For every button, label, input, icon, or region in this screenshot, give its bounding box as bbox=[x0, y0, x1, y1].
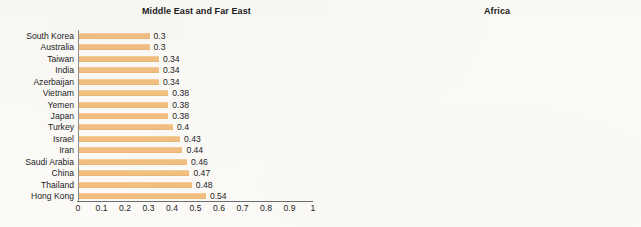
value-label: 0.44 bbox=[186, 146, 203, 155]
chart-title-left: Middle East and Far East bbox=[142, 6, 251, 16]
category-label: Israel bbox=[53, 135, 74, 144]
value-label: 0.48 bbox=[196, 180, 213, 189]
bar-row: Yemen0.38 bbox=[78, 99, 313, 110]
x-tick-label: 0 bbox=[76, 204, 81, 213]
value-label: 0.34 bbox=[163, 77, 180, 86]
x-tick-label: 0.2 bbox=[119, 204, 131, 213]
bar-row: South Korea0.3 bbox=[78, 30, 313, 41]
value-label: 0.3 bbox=[154, 31, 166, 40]
category-label: South Korea bbox=[26, 31, 74, 40]
value-label: 0.43 bbox=[184, 135, 201, 144]
bar-row: Taiwan0.34 bbox=[78, 53, 313, 64]
bar-row: Azerbaijan0.34 bbox=[78, 76, 313, 87]
bar bbox=[79, 90, 168, 96]
category-label: Hong Kong bbox=[31, 192, 74, 201]
value-label: 0.4 bbox=[177, 123, 189, 132]
bar-row: India0.34 bbox=[78, 64, 313, 75]
bar-row: Hong Kong0.54 bbox=[78, 191, 313, 202]
chart-panel-middle-east-and-far-east: Middle East and Far East South Korea0.3A… bbox=[0, 0, 318, 227]
bar-row: Thailand0.48 bbox=[78, 179, 313, 190]
bar-row: Israel0.43 bbox=[78, 133, 313, 144]
category-label: Iran bbox=[59, 146, 74, 155]
value-label: 0.34 bbox=[163, 66, 180, 75]
category-label: India bbox=[55, 66, 74, 75]
bar bbox=[79, 33, 150, 39]
category-label: Taiwan bbox=[47, 54, 74, 63]
bar-rows-left: South Korea0.3Australia0.3Taiwan0.34Indi… bbox=[78, 30, 313, 202]
value-label: 0.3 bbox=[154, 43, 166, 52]
plot-area-left: South Korea0.3Australia0.3Taiwan0.34Indi… bbox=[78, 30, 313, 202]
bar bbox=[79, 182, 192, 188]
bar bbox=[79, 102, 168, 108]
x-tick-label: 1 bbox=[311, 204, 316, 213]
bar bbox=[79, 159, 187, 165]
value-label: 0.38 bbox=[172, 89, 189, 98]
bar bbox=[79, 124, 173, 130]
category-label: Turkey bbox=[48, 123, 74, 132]
x-tick-label: 0.8 bbox=[260, 204, 272, 213]
value-label: 0.54 bbox=[210, 192, 227, 201]
x-tick-label: 0.6 bbox=[213, 204, 225, 213]
chart-title-right: Africa bbox=[484, 6, 510, 16]
bar bbox=[79, 56, 159, 62]
bar-row: Saudi Arabia0.46 bbox=[78, 156, 313, 167]
category-label: China bbox=[52, 169, 74, 178]
bar-row: Japan0.38 bbox=[78, 110, 313, 121]
x-tick-label: 0.1 bbox=[96, 204, 108, 213]
category-label: Saudi Arabia bbox=[25, 158, 74, 167]
category-label: Australia bbox=[41, 43, 74, 52]
bar bbox=[79, 147, 182, 153]
bar-row: Vietnam0.38 bbox=[78, 87, 313, 98]
bar-row: Iran0.44 bbox=[78, 145, 313, 156]
x-tick-label: 0.7 bbox=[237, 204, 249, 213]
x-tick-label: 0.3 bbox=[143, 204, 155, 213]
category-label: Vietnam bbox=[43, 89, 74, 98]
value-label: 0.47 bbox=[193, 169, 210, 178]
chart-panel-africa: Africa Egypt0.31Ethiopia0.33Algeria0.35T… bbox=[318, 0, 641, 227]
category-label: Azerbaijan bbox=[33, 77, 74, 86]
category-label: Yemen bbox=[48, 100, 74, 109]
bar-row: Australia0.3 bbox=[78, 41, 313, 52]
value-label: 0.38 bbox=[172, 100, 189, 109]
bar bbox=[79, 193, 206, 199]
category-label: Japan bbox=[51, 112, 74, 121]
bar bbox=[79, 113, 168, 119]
bar-row: China0.47 bbox=[78, 168, 313, 179]
x-tick-label: 0.4 bbox=[166, 204, 178, 213]
bar bbox=[79, 67, 159, 73]
value-label: 0.38 bbox=[172, 112, 189, 121]
bar bbox=[79, 79, 159, 85]
x-axis-ticks-left: 00.10.20.30.40.50.60.70.80.91 bbox=[78, 204, 313, 218]
x-tick-label: 0.5 bbox=[190, 204, 202, 213]
value-label: 0.34 bbox=[163, 54, 180, 63]
category-label: Thailand bbox=[41, 180, 74, 189]
value-label: 0.46 bbox=[191, 158, 208, 167]
bar bbox=[79, 170, 189, 176]
bar-row: Turkey0.4 bbox=[78, 122, 313, 133]
chart-figure: Middle East and Far East South Korea0.3A… bbox=[0, 0, 641, 227]
bar bbox=[79, 44, 150, 50]
bar bbox=[79, 136, 180, 142]
x-tick-label: 0.9 bbox=[284, 204, 296, 213]
